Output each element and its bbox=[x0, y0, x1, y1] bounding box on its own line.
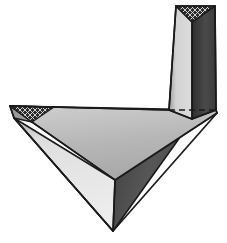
prism-illustration-svg: Two joined triangular prisms forming an … bbox=[0, 0, 227, 243]
figure-root: Two joined triangular prisms forming an … bbox=[0, 0, 227, 243]
vertical-prism bbox=[169, 6, 216, 119]
vertical-prism-right-face bbox=[192, 6, 216, 119]
